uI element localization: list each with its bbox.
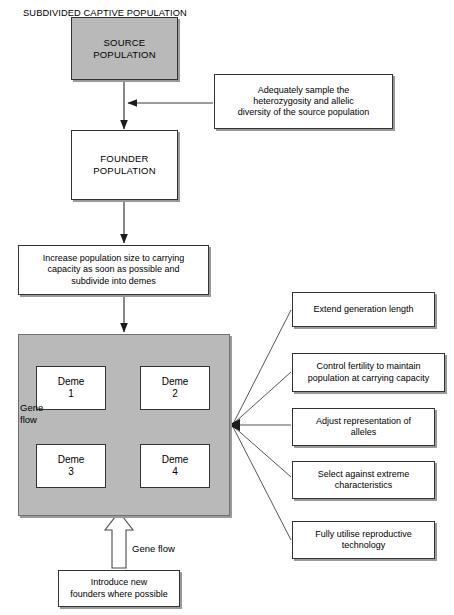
- increase-population-note: Increase population size to carrying cap…: [18, 245, 209, 295]
- gene-flow-label: Gene flow: [20, 402, 60, 426]
- deme-1-name: Deme: [58, 376, 85, 387]
- deme-3-box: Deme 3: [36, 444, 106, 488]
- gene-flow-label-line1: Gene: [20, 402, 43, 413]
- deme-3-number: 3: [68, 466, 74, 477]
- subdivided-captive-population-title: SUBDIVIDED CAPTIVE POPULATION: [0, 8, 210, 18]
- action-5-line2: technology: [342, 540, 386, 550]
- founder-population-line2: POPULATION: [93, 165, 156, 176]
- diagram-canvas: SOURCE POPULATION Adequately sample the …: [0, 0, 454, 615]
- action-box-1: Extend generation length: [292, 292, 435, 327]
- deme-4-box: Deme 4: [140, 444, 210, 488]
- founder-population-box: FOUNDER POPULATION: [71, 130, 178, 200]
- increase-note-line1: Increase population size to carrying: [43, 253, 185, 263]
- deme-4-name: Deme: [162, 454, 189, 465]
- increase-note-line2: capacity as soon as possible and: [47, 264, 179, 274]
- deme-3-name: Deme: [58, 454, 85, 465]
- action-2-line1: Control fertility to maintain: [316, 361, 420, 371]
- deme-2-name: Deme: [162, 376, 189, 387]
- sample-note-line3: diversity of the source population: [238, 107, 370, 117]
- source-population-box: SOURCE POPULATION: [71, 17, 178, 80]
- introduce-note-line1: Introduce new: [91, 577, 148, 587]
- founder-population-line1: FOUNDER: [100, 153, 148, 164]
- action-1-line1: Extend generation length: [313, 304, 413, 314]
- line-action-5: [233, 427, 291, 540]
- source-population-line1: SOURCE: [104, 37, 146, 48]
- action-box-4: Select against extreme characteristics: [292, 461, 435, 499]
- introduce-founders-note: Introduce new founders where possible: [58, 570, 180, 607]
- deme-2-number: 2: [172, 388, 178, 399]
- action-box-2: Control fertility to maintain population…: [292, 353, 445, 392]
- line-action-4: [233, 426, 291, 477]
- introduce-note-line2: founders where possible: [70, 589, 168, 599]
- action-3-line1: Adjust representation of: [316, 416, 411, 426]
- gene-flow-label-line2: flow: [20, 414, 37, 425]
- action-3-line2: alleles: [351, 427, 377, 437]
- action-box-5: Fully utilise reproductive technology: [292, 521, 435, 559]
- deme-4-number: 4: [172, 466, 178, 477]
- action-2-line2: population at carrying capacity: [308, 373, 430, 383]
- source-population-line2: POPULATION: [93, 49, 156, 60]
- action-4-line2: characteristics: [335, 480, 393, 490]
- line-action-1: [233, 310, 291, 424]
- deme-2-box: Deme 2: [140, 366, 210, 410]
- sample-source-population-note: Adequately sample the heterozygosity and…: [214, 74, 393, 129]
- line-action-2: [233, 372, 291, 424]
- sample-note-line2: heterozygosity and allelic: [253, 96, 354, 106]
- gene-flow-bottom-label: Gene flow: [132, 543, 175, 554]
- gene-flow-arrow-introduce: [105, 512, 133, 568]
- action-4-line1: Select against extreme: [318, 469, 410, 479]
- action-box-3: Adjust representation of alleles: [292, 408, 435, 446]
- action-5-line1: Fully utilise reproductive: [315, 529, 412, 539]
- deme-1-number: 1: [68, 388, 74, 399]
- increase-note-line3: subdivide into demes: [71, 276, 156, 286]
- sample-note-line1: Adequately sample the: [258, 85, 350, 95]
